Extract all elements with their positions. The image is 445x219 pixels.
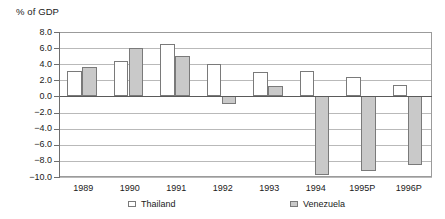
legend-label: Venezuela xyxy=(303,199,345,209)
gridline xyxy=(60,145,432,146)
chart-axis-title: % of GDP xyxy=(16,6,59,17)
legend-entry-venezuela: Venezuela xyxy=(290,199,345,209)
bar-thailand-1992 xyxy=(207,64,222,96)
y-tick-mark xyxy=(54,129,59,130)
y-tick-mark xyxy=(54,96,59,97)
y-tick-mark xyxy=(54,48,59,49)
legend-entry-thailand: Thailand xyxy=(128,199,176,209)
y-tick-label: 8.0 xyxy=(8,28,52,37)
gridline xyxy=(60,113,432,114)
bar-thailand-1990 xyxy=(114,61,129,96)
plot-area xyxy=(60,32,432,177)
y-tick-mark xyxy=(54,64,59,65)
gridline xyxy=(60,32,432,33)
bar-venezuela-1992 xyxy=(222,96,237,104)
bar-chart: % of GDP 8.06.04.02.00.0−2.0−4.0−6.0−8.0… xyxy=(0,0,445,219)
y-tick-label: −6.0 xyxy=(8,140,52,149)
y-tick-label: 2.0 xyxy=(8,76,52,85)
x-axis-label-1990: 1990 xyxy=(107,183,154,193)
bar-venezuela-1991 xyxy=(175,56,190,96)
y-tick-label: 6.0 xyxy=(8,44,52,53)
bar-thailand-1995P xyxy=(346,77,361,96)
x-axis-label-1991: 1991 xyxy=(153,183,200,193)
y-tick-mark xyxy=(54,145,59,146)
y-tick-label: 0.0 xyxy=(8,92,52,101)
gridline xyxy=(60,129,432,130)
bar-venezuela-1995P xyxy=(361,96,376,170)
gridline xyxy=(60,161,432,162)
legend-swatch-icon-thailand xyxy=(128,201,136,207)
bar-thailand-1989 xyxy=(67,71,82,97)
chart-legend: ThailandVenezuela xyxy=(0,199,445,213)
y-tick-mark xyxy=(54,161,59,162)
gridline xyxy=(60,48,432,49)
y-tick-mark xyxy=(54,80,59,81)
bar-thailand-1993 xyxy=(253,72,268,96)
bar-thailand-1991 xyxy=(160,44,175,96)
zero-line xyxy=(60,96,432,97)
x-axis-label-1994: 1994 xyxy=(293,183,340,193)
y-tick-mark xyxy=(54,177,59,178)
y-tick-label: −10.0 xyxy=(8,173,52,182)
x-axis-label-1989: 1989 xyxy=(60,183,107,193)
y-tick-label: −4.0 xyxy=(8,124,52,133)
y-tick-mark xyxy=(54,113,59,114)
y-tick-mark xyxy=(54,32,59,33)
gridline xyxy=(60,177,432,178)
legend-label: Thailand xyxy=(141,199,176,209)
x-axis-label-1993: 1993 xyxy=(246,183,293,193)
bar-thailand-1996P xyxy=(393,85,408,96)
bar-venezuela-1989 xyxy=(82,67,97,96)
y-tick-label: −8.0 xyxy=(8,156,52,165)
bar-venezuela-1993 xyxy=(268,86,283,96)
bar-venezuela-1994 xyxy=(315,96,330,174)
bar-venezuela-1996P xyxy=(408,96,423,164)
bar-thailand-1994 xyxy=(300,71,315,97)
y-tick-label: 4.0 xyxy=(8,60,52,69)
plot-frame xyxy=(60,32,432,177)
x-axis-label-1995P: 1995P xyxy=(339,183,386,193)
legend-swatch-icon-venezuela xyxy=(290,201,298,207)
x-axis-label-1996P: 1996P xyxy=(386,183,433,193)
y-tick-label: −2.0 xyxy=(8,108,52,117)
bar-venezuela-1990 xyxy=(129,48,144,96)
x-axis-label-1992: 1992 xyxy=(200,183,247,193)
